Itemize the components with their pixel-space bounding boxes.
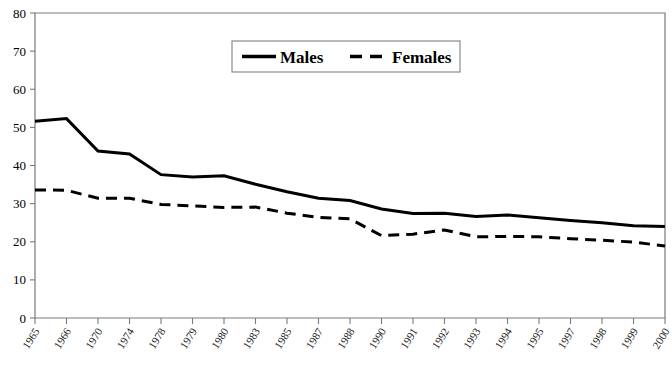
x-tick-label: 2000 (650, 325, 672, 350)
y-tick-label: 80 (13, 6, 26, 21)
x-tick-label: 1985 (272, 325, 294, 350)
x-tick-label: 1965 (20, 325, 42, 350)
data-series-group (35, 119, 665, 246)
y-tick-label: 30 (13, 196, 26, 211)
y-tick-label: 40 (13, 158, 26, 173)
chart-legend: MalesFemales (232, 41, 460, 72)
x-tick-label: 1994 (492, 325, 514, 350)
x-tick-label: 1979 (177, 325, 199, 350)
y-tick-label: 10 (13, 272, 26, 287)
x-tick-label: 1999 (618, 325, 640, 350)
x-tick-label: 1993 (461, 325, 483, 350)
line-chart: 01020304050607080 1965196619701974197819… (0, 0, 672, 368)
x-tick-label: 1995 (524, 325, 546, 350)
y-tick-label: 50 (13, 120, 26, 135)
series-line-females (35, 190, 665, 246)
series-line-males (35, 119, 665, 227)
x-tick-label: 1983 (240, 325, 262, 350)
x-tick-label: 1988 (335, 325, 357, 350)
x-tick-label: 1987 (303, 325, 325, 350)
x-tick-label: 1990 (366, 325, 388, 350)
y-tick-label: 60 (13, 82, 26, 97)
x-tick-label: 1978 (146, 325, 168, 350)
x-tick-label: 1998 (587, 325, 609, 350)
chart-canvas: 01020304050607080 1965196619701974197819… (0, 0, 672, 368)
x-tick-label: 1974 (114, 325, 136, 350)
x-tick-label: 1966 (51, 325, 73, 350)
x-axis-ticks: 1965196619701974197819791980198319851987… (20, 318, 672, 351)
x-tick-label: 1980 (209, 325, 231, 350)
x-tick-label: 1991 (398, 326, 420, 351)
legend-label-females: Females (392, 48, 452, 67)
y-tick-label: 70 (13, 44, 26, 59)
x-tick-label: 1997 (555, 325, 577, 350)
y-axis-ticks: 01020304050607080 (13, 6, 35, 326)
y-tick-label: 20 (13, 234, 26, 249)
x-tick-label: 1970 (83, 325, 105, 350)
x-tick-label: 1992 (429, 326, 451, 351)
legend-label-males: Males (280, 48, 324, 67)
y-tick-label: 0 (20, 311, 27, 326)
